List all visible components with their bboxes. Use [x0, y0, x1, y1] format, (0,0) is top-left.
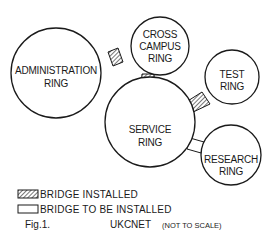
- ring-label: RING: [219, 166, 244, 177]
- legend: BRIDGE INSTALLED BRIDGE TO BE INSTALLED: [18, 189, 172, 215]
- hatched-swatch-icon: [18, 190, 38, 198]
- figure-title: UKCNET: [110, 219, 151, 230]
- legend-item-planned: BRIDGE TO BE INSTALLED: [18, 204, 172, 215]
- ring-test: TEST RING: [205, 50, 259, 104]
- scale-note: (NOT TO SCALE): [162, 221, 222, 230]
- legend-item-installed: BRIDGE INSTALLED: [18, 189, 138, 200]
- ring-service: SERVICE RING: [105, 77, 195, 167]
- bridge-admin-crosscampus: [108, 48, 123, 66]
- ring-label: RING: [44, 78, 69, 89]
- legend-label: BRIDGE INSTALLED: [40, 189, 138, 200]
- ring-label: RING: [148, 53, 173, 64]
- ring-research: RESEARCH RING: [201, 125, 261, 185]
- ring-label: CAMPUS: [139, 41, 181, 52]
- ring-label: RING: [220, 81, 245, 92]
- figure-number: Fig.1.: [25, 219, 50, 230]
- ring-label: RING: [138, 137, 163, 148]
- ring-label: RESEARCH: [204, 154, 258, 165]
- ukcnet-diagram: ADMINISTRATION RING CROSS CAMPUS RING TE…: [0, 0, 268, 245]
- figure-caption: Fig.1. UKCNET (NOT TO SCALE): [25, 219, 222, 230]
- ring-label: TEST: [220, 69, 245, 80]
- open-swatch-icon: [18, 205, 38, 213]
- legend-label: BRIDGE TO BE INSTALLED: [40, 204, 172, 215]
- ring-label: CROSS: [143, 29, 178, 40]
- ring-label: SERVICE: [129, 124, 172, 135]
- ring-label: ADMINISTRATION: [15, 65, 97, 76]
- ring-cross-campus: CROSS CAMPUS RING: [131, 17, 189, 75]
- ring-administration: ADMINISTRATION RING: [11, 28, 101, 118]
